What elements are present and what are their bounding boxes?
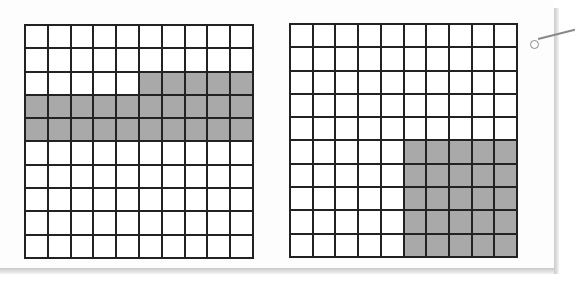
grid-cell-shaded [404,210,427,233]
grid-cell [116,211,139,234]
grid-cell [185,235,208,258]
grid-cell [381,117,404,140]
grid-cell-shaded [162,95,185,118]
grid-cell [230,211,253,234]
grid-cell-shaded [426,164,449,187]
grid-cell-shaded [494,234,517,257]
grid-cell [116,165,139,188]
grid-cell [404,71,427,94]
grid-cell [71,141,94,164]
grid-cell [116,188,139,211]
grid-cell [290,210,313,233]
grid-cell [426,71,449,94]
grid-cell [93,141,116,164]
grid-cell [162,165,185,188]
grid-cell [93,165,116,188]
grid-cell-shaded [494,210,517,233]
grid-cell [449,94,472,117]
grid-cell [207,25,230,48]
grid-cell-shaded [185,72,208,95]
grid-cell [494,117,517,140]
grid-cell [162,25,185,48]
grid-cell [139,211,162,234]
grid-cell [472,71,495,94]
grid-cell-shaded [404,164,427,187]
grid-cell [472,24,495,47]
grid-cell [494,47,517,70]
grid-cell [358,210,381,233]
grid-cell-shaded [25,118,48,141]
grid-cell [162,211,185,234]
grid-cell [426,117,449,140]
grid-cell [381,187,404,210]
grid-cell [290,24,313,47]
grid-cell-shaded [162,72,185,95]
grid-cell-shaded [494,187,517,210]
grid-cell-shaded [93,95,116,118]
grid-cell [290,94,313,117]
grid-cell-shaded [404,187,427,210]
grid-cell-shaded [185,118,208,141]
grid-cell [335,94,358,117]
grid-cell [290,187,313,210]
grid-cell [290,117,313,140]
grid-cell [335,187,358,210]
grid-cell [25,48,48,71]
grid-cell [162,188,185,211]
grid-cell [230,165,253,188]
grid-cell-shaded [472,210,495,233]
grid-cell [48,48,71,71]
grid-cell [313,187,336,210]
grid-cell [290,71,313,94]
grid-cell [25,211,48,234]
grid-cell [404,47,427,70]
grid-cell [335,234,358,257]
grid-cell [494,24,517,47]
grid-cell-shaded [472,234,495,257]
grid-cell [25,25,48,48]
grid-cell [313,24,336,47]
grid-cell [404,24,427,47]
grid-cell [185,48,208,71]
grid-cell-shaded [207,72,230,95]
grid-cell [381,71,404,94]
grid-cell [381,234,404,257]
grid-cell-shaded [93,118,116,141]
grid-cell [116,48,139,71]
grid-cell [71,72,94,95]
grid-cell-shaded [48,118,71,141]
grid-cell [25,188,48,211]
grid-cell-shaded [207,118,230,141]
grid-cell [358,140,381,163]
grid-cell [185,141,208,164]
grid-cell-shaded [449,164,472,187]
grid-cell [93,48,116,71]
grid-cell-shaded [426,140,449,163]
grid-cell [335,71,358,94]
grid-cell [93,72,116,95]
grid-cell [358,71,381,94]
grid-cell-shaded [162,118,185,141]
grid-cell [48,72,71,95]
grid-cell-shaded [449,234,472,257]
grid-cell [93,235,116,258]
grid-cell [139,141,162,164]
grid-cell [162,141,185,164]
grid-cell [25,165,48,188]
grid-cell [472,117,495,140]
grid-cell-shaded [426,187,449,210]
grid-cell [335,47,358,70]
grid-cell-shaded [71,95,94,118]
grid-cell [381,140,404,163]
grid-cell [426,24,449,47]
grid-cell [48,235,71,258]
grid-cell [139,48,162,71]
grid-cell [230,25,253,48]
grid-cell-shaded [472,187,495,210]
grid-cell [116,72,139,95]
grid-cell [335,164,358,187]
grid-cell-shaded [116,95,139,118]
grid-cell [381,164,404,187]
grid-cell [313,210,336,233]
grid-cell [230,235,253,258]
